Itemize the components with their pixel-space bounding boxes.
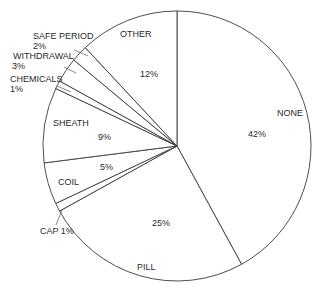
label-withdrawal-pct: 3% <box>12 61 25 71</box>
pie-chart: SAFE PERIOD 2% WITHDRAWAL 3% CHEMICALS 1… <box>0 0 313 288</box>
label-sheath-pct: 9% <box>98 132 111 142</box>
label-coil-pct: 5% <box>100 162 113 172</box>
label-safe-period-pct: 2% <box>33 41 46 51</box>
label-safe-period-name: SAFE PERIOD <box>33 31 94 41</box>
label-none-name: NONE <box>277 108 303 118</box>
label-none-pct: 42% <box>248 129 266 139</box>
label-pill-pct: 25% <box>152 218 170 228</box>
label-chemicals-name: CHEMICALS <box>10 74 63 84</box>
label-other-pct: 12% <box>140 69 158 79</box>
label-cap: CAP 1% <box>40 226 74 236</box>
label-coil-name: COIL <box>58 177 79 187</box>
label-withdrawal-name: WITHDRAWAL <box>13 51 74 61</box>
label-pill-name: PILL <box>137 262 156 272</box>
label-sheath-name: SHEATH <box>53 118 89 128</box>
label-chemicals-pct: 1% <box>10 84 23 94</box>
leader-line-cap <box>56 210 62 225</box>
label-other-name: OTHER <box>120 29 152 39</box>
pie-slices <box>43 11 311 281</box>
